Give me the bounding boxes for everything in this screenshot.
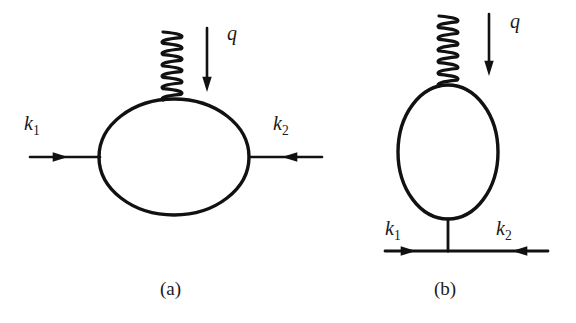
diagram-b-momentum-arrow-q xyxy=(484,14,493,76)
figure-container: k1 k2 q (a) xyxy=(0,0,576,323)
caption-a: (a) xyxy=(160,278,181,300)
arrow-head-k2 xyxy=(512,246,527,255)
photon-coil-line xyxy=(162,32,182,100)
diagram-a-fermion-in xyxy=(30,152,100,161)
momentum-subscript: 2 xyxy=(282,123,289,138)
diagram-a-fermion-out xyxy=(249,152,322,161)
fermion-loop-ellipse xyxy=(99,99,249,215)
label-k2: k2 xyxy=(273,112,289,138)
label-k1: k1 xyxy=(24,112,40,138)
fermion-loop-ellipse xyxy=(398,85,498,219)
diagram-b-fermion-in xyxy=(385,246,448,255)
momentum-subscript: 1 xyxy=(394,228,401,243)
arrow-head-k1 xyxy=(53,152,68,161)
momentum-subscript: 2 xyxy=(505,228,512,243)
feynman-diagram-canvas: k1 k2 q (a) xyxy=(0,0,576,323)
arrow-head-k1 xyxy=(401,246,416,255)
diagram-a-momentum-arrow-q xyxy=(202,28,211,92)
diagram-b-group: k1 k2 q (b) xyxy=(385,10,548,300)
label-q: q xyxy=(510,10,520,33)
diagram-b-fermion-out xyxy=(448,246,548,255)
label-k1: k1 xyxy=(385,217,401,243)
momentum-arrow-head-q xyxy=(202,77,211,92)
photon-coil-line xyxy=(438,16,458,86)
caption-b: (b) xyxy=(434,278,456,300)
momentum-subscript: 1 xyxy=(33,123,40,138)
diagram-a-group: k1 k2 q (a) xyxy=(24,22,322,300)
arrow-head-k2 xyxy=(282,152,297,161)
label-q: q xyxy=(227,22,237,45)
momentum-arrow-head-q xyxy=(484,61,493,76)
label-k2: k2 xyxy=(496,217,512,243)
